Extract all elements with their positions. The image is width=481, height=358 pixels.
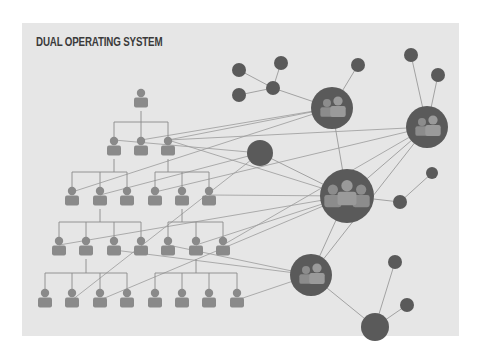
person-icon [93,289,107,308]
person-icon [148,187,162,206]
person-icon [230,289,244,308]
network-node [247,140,273,166]
cross-link-line [155,127,427,192]
person-icon [107,237,121,256]
dual-operating-system-diagram [0,0,481,358]
person-icon [134,237,148,256]
person-icon [202,187,216,206]
person-icon [52,237,66,256]
person-icon [93,187,107,206]
person-icon [202,289,216,308]
network-node [232,63,246,77]
person-icon [134,89,148,108]
cross-link-line [141,108,332,140]
person-icon [120,289,134,308]
network-group-node [320,169,374,223]
person-icon [216,237,230,256]
person-icon [65,289,79,308]
person-icon [161,237,175,256]
person-icon [107,137,121,156]
network-group-node [290,254,332,296]
network-node [266,81,280,95]
person-icon [134,137,148,156]
person-icon [38,289,52,308]
person-icon [175,187,189,206]
network-node [393,195,407,209]
network-node [400,298,414,312]
network-group-node [406,106,448,148]
network-nodes [232,48,448,341]
network-node [388,255,402,269]
person-icon [175,289,189,308]
cross-link-line [168,108,332,140]
person-icon [189,237,203,256]
network-node [274,56,288,70]
network-node [232,88,246,102]
network-group-node [311,87,353,129]
network-node [426,167,438,179]
network-node [404,48,418,62]
network-node [361,313,389,341]
person-icon [148,289,162,308]
network-node [351,58,365,72]
network-node [431,68,445,82]
person-icon [65,187,79,206]
